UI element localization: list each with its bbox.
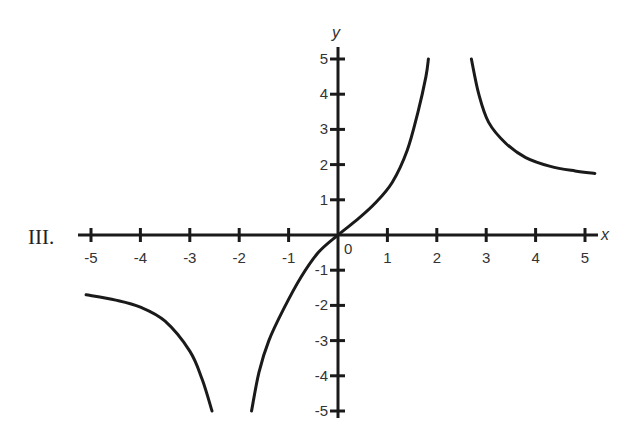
y-axis: 54321-1-2-3-4-5 y (315, 24, 345, 419)
x-axis-title: x (600, 226, 610, 243)
y-tick-label: -4 (315, 367, 328, 384)
y-tick-label: 5 (320, 50, 328, 67)
y-tick-label: 1 (320, 191, 328, 208)
y-tick-label: -1 (315, 261, 328, 278)
x-tick-label: 4 (531, 249, 539, 266)
curve-left-branch (86, 295, 212, 411)
x-tick-label: -1 (282, 249, 295, 266)
curve-right-branch (471, 59, 595, 173)
x-tick-label: 2 (433, 249, 441, 266)
x-tick-label: 1 (383, 249, 391, 266)
panel-label: III. (28, 225, 54, 249)
x-tick-label: 3 (482, 249, 490, 266)
origin-label: 0 (344, 240, 352, 257)
y-tick-label: 4 (320, 85, 328, 102)
y-tick-label: -3 (315, 332, 328, 349)
x-tick-label: -5 (84, 249, 97, 266)
y-tick-label: 3 (320, 120, 328, 137)
y-tick-label: -5 (315, 402, 328, 419)
function-graph: III. -5-4-3-2-112345 x 54321-1-2-3-4-5 y… (0, 0, 644, 443)
y-axis-title: y (331, 24, 341, 41)
y-tick-label: 2 (320, 156, 328, 173)
x-tick-label: -3 (183, 249, 196, 266)
x-tick-label: -2 (233, 249, 246, 266)
y-tick-label: -2 (315, 296, 328, 313)
x-tick-label: -4 (134, 249, 147, 266)
x-tick-label: 5 (581, 249, 589, 266)
